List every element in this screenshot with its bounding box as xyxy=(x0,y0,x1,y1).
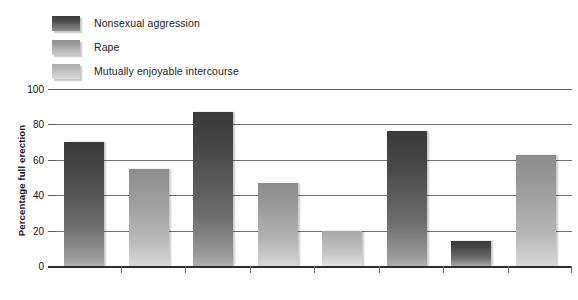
bar xyxy=(516,155,556,267)
y-tick-60 xyxy=(48,160,56,161)
category-divider xyxy=(571,266,572,273)
category-divider xyxy=(250,266,251,273)
bar xyxy=(193,112,233,266)
legend-label-mutually-enjoyable-intercourse: Mutually enjoyable intercourse xyxy=(94,66,239,77)
y-tick-label-20: 20 xyxy=(33,225,44,236)
legend-item-mutually-enjoyable-intercourse: Mutually enjoyable intercourse xyxy=(52,59,472,83)
gridline-60 xyxy=(56,160,572,161)
legend-swatch-nonsexual-aggression xyxy=(52,16,80,31)
legend-swatch-rape xyxy=(52,40,80,55)
bar xyxy=(451,241,491,266)
chart-legend: Nonsexual aggression Rape Mutually enjoy… xyxy=(52,11,472,83)
y-tick-100 xyxy=(48,89,56,90)
legend-swatch-mutually-enjoyable-intercourse xyxy=(52,64,80,79)
category-divider xyxy=(185,266,186,273)
y-tick-80 xyxy=(48,124,56,125)
gridline-100 xyxy=(56,89,572,90)
bar xyxy=(64,142,104,266)
legend-label-nonsexual-aggression: Nonsexual aggression xyxy=(94,18,200,29)
category-divider xyxy=(508,266,509,273)
plot-area: 020406080100 xyxy=(56,89,572,266)
category-divider xyxy=(314,266,315,273)
bar-chart: Nonsexual aggression Rape Mutually enjoy… xyxy=(0,0,578,300)
bar xyxy=(322,231,362,266)
y-axis-title: Percentage full erection xyxy=(16,111,27,251)
category-divider xyxy=(121,266,122,273)
legend-item-rape: Rape xyxy=(52,35,472,59)
legend-label-rape: Rape xyxy=(94,42,120,53)
bar xyxy=(258,183,298,266)
category-divider xyxy=(379,266,380,273)
bar xyxy=(387,131,427,266)
y-tick-label-0: 0 xyxy=(38,261,44,272)
legend-item-nonsexual-aggression: Nonsexual aggression xyxy=(52,11,472,35)
x-axis-baseline xyxy=(48,266,572,268)
y-tick-label-80: 80 xyxy=(33,119,44,130)
y-tick-40 xyxy=(48,195,56,196)
y-tick-label-40: 40 xyxy=(33,190,44,201)
y-tick-label-60: 60 xyxy=(33,154,44,165)
gridline-80 xyxy=(56,124,572,125)
y-tick-label-100: 100 xyxy=(27,84,44,95)
bar xyxy=(129,169,169,266)
category-divider xyxy=(443,266,444,273)
y-tick-20 xyxy=(48,231,56,232)
